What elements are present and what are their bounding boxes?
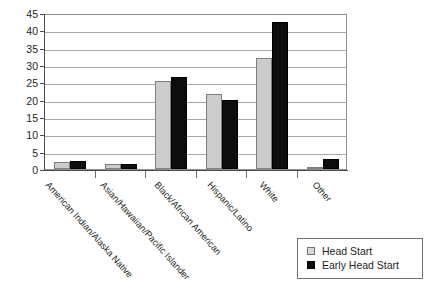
legend-item-early-head-start[interactable]: Early Head Start: [298, 258, 422, 272]
gridline: [45, 32, 346, 33]
bar-chart: 051015202530354045 American Indian/Alask…: [0, 0, 440, 307]
chart-legend: Head Start Early Head Start: [297, 238, 423, 279]
gridline: [45, 136, 346, 137]
y-axis-tick: [40, 83, 44, 84]
legend-swatch-early-head-start-icon: [307, 261, 315, 269]
y-axis-tick-label: 35: [4, 44, 38, 54]
x-axis-tick: [95, 171, 96, 178]
bar-head-start: [105, 164, 121, 169]
y-axis-tick-label: 5: [4, 148, 38, 158]
bar-early-head-start: [121, 164, 137, 169]
y-axis-tick-label: 15: [4, 113, 38, 123]
x-axis-category-label: Other: [310, 180, 333, 204]
legend-label-early-head-start: Early Head Start: [322, 259, 399, 271]
bar-early-head-start: [272, 22, 288, 169]
x-axis-category-label: American Indian/Alaska Native: [44, 180, 135, 280]
bar-head-start: [206, 94, 222, 169]
y-axis-tick: [40, 135, 44, 136]
bar-early-head-start: [222, 100, 238, 169]
y-axis-tick-label: 25: [4, 78, 38, 88]
x-axis-tick: [196, 171, 197, 178]
x-axis-tick: [297, 171, 298, 178]
gridline: [45, 50, 346, 51]
y-axis-tick: [40, 14, 44, 15]
y-axis-tick: [40, 101, 44, 102]
y-axis-tick-label: 40: [4, 26, 38, 36]
bar-head-start: [54, 162, 70, 169]
gridline: [45, 67, 346, 68]
y-axis-tick: [40, 170, 44, 171]
y-axis-tick-label: 0: [4, 165, 38, 175]
y-axis-tick: [40, 66, 44, 67]
legend-label-head-start: Head Start: [322, 245, 372, 257]
x-axis-tick: [145, 171, 146, 178]
legend-item-head-start[interactable]: Head Start: [298, 244, 422, 258]
bar-head-start: [256, 58, 272, 169]
y-axis-tick: [40, 31, 44, 32]
y-axis-tick-label: 20: [4, 96, 38, 106]
x-axis-tick: [246, 171, 247, 178]
bar-early-head-start: [70, 161, 86, 169]
y-axis-tick-label: 30: [4, 61, 38, 71]
y-axis-tick-label: 10: [4, 130, 38, 140]
y-axis-line: [44, 14, 45, 171]
legend-swatch-head-start-icon: [307, 247, 315, 255]
bar-early-head-start: [323, 159, 339, 169]
bar-head-start: [155, 81, 171, 169]
bar-early-head-start: [171, 77, 187, 169]
y-axis-tick: [40, 153, 44, 154]
x-axis-category-label: Hispanic/Latino: [205, 180, 254, 233]
y-axis-tick: [40, 49, 44, 50]
gridline: [45, 119, 346, 120]
plot-area: [44, 14, 347, 170]
gridline: [45, 84, 346, 85]
gridline: [45, 154, 346, 155]
x-axis-category-label: White: [258, 180, 281, 204]
gridline: [45, 102, 346, 103]
y-axis-tick: [40, 118, 44, 119]
y-axis-tick-label: 45: [4, 9, 38, 19]
bar-head-start: [307, 167, 323, 169]
x-axis-category-label: Asian/Hawaiian/Pacific Islander: [98, 180, 191, 282]
